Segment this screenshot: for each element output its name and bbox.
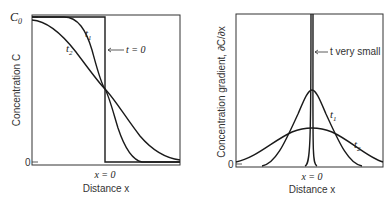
right-panel: t very small t1 t2 0 x = 0 Distance x Co… [216, 14, 383, 195]
y-top-tick-label: C0 [10, 10, 22, 26]
label-t0: t = 0 [126, 44, 146, 55]
label-t1: t1 [85, 27, 92, 42]
label-t1-gradient: t1 [330, 108, 337, 123]
label-t-small: t very small [330, 46, 381, 57]
diffusion-figure: C0 0 t1 t2 t = 0 x = 0 Distance x Concen… [0, 0, 392, 200]
x-axis-label-right: Distance x [289, 184, 336, 195]
x-tick-label-right: x = 0 [300, 171, 322, 182]
y-axis-label-right: Concentration gradient, ∂C/∂x [216, 26, 227, 158]
y-axis-label: Concentration C [11, 54, 22, 126]
y-bottom-tick-label: 0 [25, 157, 31, 168]
y-bottom-tick-label-right: 0 [228, 159, 234, 170]
curve-t2 [32, 20, 180, 160]
label-t2-gradient: t2 [354, 138, 361, 153]
left-panel: C0 0 t1 t2 t = 0 x = 0 Distance x Concen… [10, 10, 180, 194]
x-axis-label: Distance x [83, 183, 130, 194]
x-tick-label: x = 0 [93, 169, 115, 180]
